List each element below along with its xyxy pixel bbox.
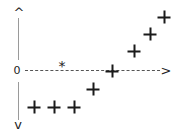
x-axis-dashed-line (25, 70, 160, 71)
origin-label: 0 (14, 65, 21, 76)
scatter-diagram: ^ v 0 > * (0, 0, 182, 138)
y-axis-up-arrow-icon: ^ (14, 6, 25, 19)
plus-marker-8 (158, 11, 171, 24)
x-axis-right-arrow-icon: > (161, 64, 172, 77)
plus-marker-4 (87, 83, 100, 96)
y-axis-down-arrow-icon: v (14, 118, 22, 131)
plus-marker-5 (106, 65, 119, 78)
star-marker: * (59, 59, 66, 73)
y-axis-lower-line (18, 82, 19, 120)
plus-marker-2 (48, 101, 61, 114)
plus-marker-7 (144, 28, 157, 41)
plus-marker-6 (128, 45, 141, 58)
plus-marker-1 (28, 101, 41, 114)
y-axis-upper-line (18, 18, 19, 60)
plus-marker-3 (68, 101, 81, 114)
